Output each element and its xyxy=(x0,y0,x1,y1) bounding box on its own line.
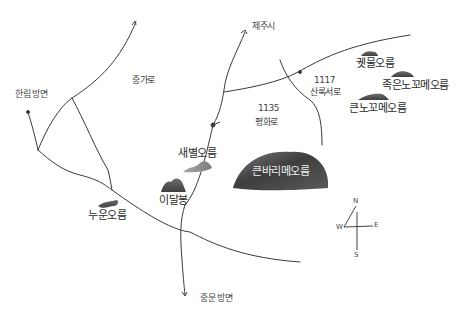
mountain-idalbong xyxy=(161,179,186,192)
arrow-jungsan xyxy=(132,21,136,25)
label-jungsanro: 중가로 xyxy=(132,76,155,86)
compass-s: S xyxy=(354,251,358,259)
compass-e: E xyxy=(374,221,378,229)
mountain-kettongul xyxy=(361,51,378,56)
compass-w: W xyxy=(336,223,343,231)
mountain-saebyeol xyxy=(183,161,212,172)
label-keunbari: 큰바리메오름 xyxy=(252,166,309,178)
road-jungsanro xyxy=(38,22,136,150)
label-kettongul: 궷물오름 xyxy=(356,58,394,70)
hallim-dot xyxy=(27,111,30,114)
sanrok-dot xyxy=(299,71,302,74)
label-jungmun: 중문 방면 xyxy=(200,294,232,304)
road-hallim-branch xyxy=(28,112,38,150)
map-canvas xyxy=(0,0,464,320)
label-jokeun-nokkomae: 족은노꼬메오름 xyxy=(382,80,449,92)
label-pyeonghwaro: 평화로 xyxy=(255,118,278,128)
road-connector xyxy=(72,98,112,190)
label-idalbong: 이달봉 xyxy=(159,195,188,207)
label-keun-nokkomae: 큰노꼬메오름 xyxy=(349,103,406,115)
road-pyeonghwaro xyxy=(181,32,245,295)
label-nuun: 누운오름 xyxy=(88,210,126,222)
mountain-keun-nokkomae xyxy=(358,94,389,100)
label-road-1135: 1135 xyxy=(258,104,279,114)
mountain-jokeun xyxy=(391,71,414,77)
label-saebyeol: 새별오름 xyxy=(178,148,216,160)
label-road-1117: 1117 xyxy=(314,76,335,86)
label-sanrokseoro: 산록서로 xyxy=(310,88,340,98)
compass-icon xyxy=(344,206,373,250)
label-jeju-city: 제주시 xyxy=(252,22,275,32)
compass-n: N xyxy=(353,197,358,205)
label-hallim: 한림 방면 xyxy=(15,90,47,100)
mountain-nuun xyxy=(98,200,118,208)
